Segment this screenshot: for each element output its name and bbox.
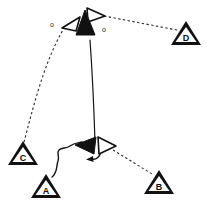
node-b-label: B (156, 182, 163, 192)
agent-top-left-hollow-icon[interactable] (62, 17, 80, 31)
diagram-svg: C A B D o o (0, 0, 207, 204)
diagram-canvas: C A B D o o (0, 0, 207, 204)
edge-c-to-top-left-hollow (24, 30, 63, 142)
agent-layer (62, 8, 116, 154)
node-c-label: C (20, 153, 27, 163)
node-a[interactable]: A (31, 174, 61, 198)
agent-center-filled-icon[interactable] (75, 137, 96, 154)
edge-center-hollow-to-b (113, 150, 152, 174)
agent-top-right-hollow-icon[interactable] (87, 8, 105, 22)
edge-center-to-top-solid (90, 40, 95, 142)
edge-label-left-o: o (50, 21, 54, 28)
node-d-label: D (183, 33, 190, 43)
node-d[interactable]: D (171, 21, 201, 45)
node-b[interactable]: B (144, 170, 174, 194)
edge-label-right-o: o (102, 26, 106, 33)
node-a-label: A (43, 186, 50, 196)
edge-top-right-hollow-to-d (104, 16, 177, 30)
edge-a-to-center-wavy (52, 142, 82, 177)
node-layer: C A B D (8, 21, 201, 198)
node-c[interactable]: C (8, 141, 38, 165)
agent-center-hollow-icon[interactable] (98, 137, 116, 154)
